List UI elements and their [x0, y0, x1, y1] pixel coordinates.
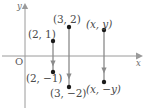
label-point-3-neg2: (3, −2): [50, 88, 86, 99]
coordinate-plane-figure: x y O (2, 1) (2, −1) (3, 2) (3, −2) (x, …: [0, 0, 150, 111]
label-point-2-neg1: (2, −1): [26, 73, 62, 84]
y-axis-label: y: [17, 2, 22, 11]
origin-label: O: [15, 57, 23, 67]
point-3-2: [67, 25, 71, 29]
label-point-x-negy: (x, −y): [86, 84, 121, 95]
label-point-x-y: (x, y): [86, 19, 112, 30]
label-point-3-2: (3, 2): [53, 14, 81, 25]
x-axis-label: x: [136, 59, 141, 68]
label-point-2-1: (2, 1): [28, 29, 56, 40]
segment-3: [66, 27, 71, 87]
